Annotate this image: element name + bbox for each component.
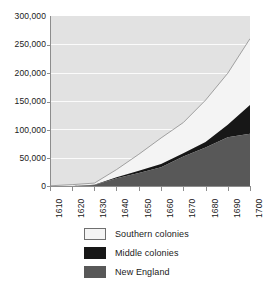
x-axis-tick-1660 bbox=[161, 187, 162, 191]
x-axis-label-1620: 1620 bbox=[76, 199, 86, 218]
x-axis-tick-1610 bbox=[50, 187, 51, 191]
y-axis-label-50000: 50,000 bbox=[0, 154, 46, 163]
y-axis-label-0: 0 bbox=[0, 182, 46, 191]
x-axis-labels: 1610 1620 1630 1640 1650 1660 1670 1680 … bbox=[50, 192, 255, 226]
plot-area bbox=[50, 16, 250, 186]
legend-label-middle-colonies: Middle colonies bbox=[115, 248, 179, 258]
y-axis-label-150000: 150,000 bbox=[0, 97, 46, 106]
legend-label-southern-colonies: Southern colonies bbox=[115, 229, 189, 239]
x-axis-tick-1690 bbox=[228, 187, 229, 191]
x-axis-tick-1670 bbox=[183, 187, 184, 191]
x-axis-label-1610: 1610 bbox=[54, 199, 64, 218]
y-axis-label-250000: 250,000 bbox=[0, 40, 46, 49]
x-axis-label-1640: 1640 bbox=[120, 199, 130, 218]
legend-swatch-middle-colonies bbox=[84, 247, 106, 259]
y-axis-label-100000: 100,000 bbox=[0, 126, 46, 135]
x-axis-tick-1630 bbox=[94, 187, 95, 191]
x-axis-tick-1650 bbox=[139, 187, 140, 191]
y-axis-labels: 300,000 250,000 200,000 150,000 100,000 … bbox=[0, 0, 46, 296]
x-axis-tick-1620 bbox=[72, 187, 73, 191]
x-axis-label-1630: 1630 bbox=[98, 199, 108, 218]
x-axis-label-1660: 1660 bbox=[165, 199, 175, 218]
legend-label-new-england: New England bbox=[115, 267, 170, 277]
population-area-chart: 300,000 250,000 200,000 150,000 100,000 … bbox=[0, 0, 271, 296]
x-axis-tick-1640 bbox=[116, 187, 117, 191]
x-axis-tick-1680 bbox=[206, 187, 207, 191]
stacked-areas bbox=[50, 16, 250, 186]
legend-swatch-southern-colonies bbox=[84, 228, 106, 240]
y-axis-label-300000: 300,000 bbox=[0, 12, 46, 21]
x-axis-line bbox=[50, 186, 251, 187]
legend-swatch-new-england bbox=[84, 266, 106, 278]
legend-item-middle-colonies: Middle colonies bbox=[84, 243, 244, 262]
chart-legend: Southern colonies Middle colonies New En… bbox=[84, 224, 244, 281]
y-axis-line bbox=[50, 16, 51, 187]
legend-item-new-england: New England bbox=[84, 262, 244, 281]
x-axis-label-1690: 1690 bbox=[232, 199, 242, 218]
x-axis-label-1650: 1650 bbox=[143, 199, 153, 218]
x-axis-label-1680: 1680 bbox=[210, 199, 220, 218]
x-axis-label-1700: 1700 bbox=[254, 199, 264, 218]
x-axis-label-1670: 1670 bbox=[187, 199, 197, 218]
y-axis-label-200000: 200,000 bbox=[0, 69, 46, 78]
x-axis-tick-1700 bbox=[250, 187, 251, 191]
legend-item-southern-colonies: Southern colonies bbox=[84, 224, 244, 243]
